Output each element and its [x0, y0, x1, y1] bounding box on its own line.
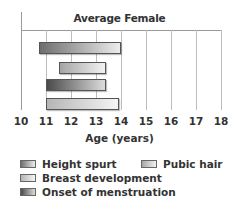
- x-tick-label: 13: [86, 115, 106, 127]
- chart-title: Average Female: [0, 12, 239, 24]
- gridline: [121, 30, 122, 110]
- onset-of-menstruation-swatch: [20, 188, 36, 196]
- x-tick-label: 15: [136, 115, 156, 127]
- gridline: [221, 30, 222, 110]
- gridline: [171, 30, 172, 110]
- x-axis-label: Age (years): [0, 132, 239, 144]
- x-tick-label: 12: [61, 115, 81, 127]
- gridline: [21, 12, 22, 110]
- gridline: [196, 30, 197, 110]
- legend-item-breast-development: Breast development: [20, 171, 162, 185]
- x-tick-label: 14: [111, 115, 131, 127]
- x-tick-label: 17: [186, 115, 206, 127]
- x-tick-label: 18: [211, 115, 231, 127]
- gridline: [146, 30, 147, 110]
- breast-development-swatch: [20, 174, 36, 182]
- legend-label: Height spurt: [42, 158, 117, 170]
- legend-item-onset-of-menstruation: Onset of menstruation: [20, 185, 176, 199]
- legend-item-pubic-hair: Pubic hair: [141, 157, 223, 171]
- pubic-hair-swatch: [141, 160, 157, 168]
- legend-label: Pubic hair: [163, 158, 223, 170]
- height-spurt-swatch: [20, 160, 36, 168]
- x-tick-label: 11: [36, 115, 56, 127]
- x-tick-label: 16: [161, 115, 181, 127]
- bar-onset-of-menstruation: [46, 79, 106, 91]
- bar-height-spurt: [39, 42, 122, 54]
- legend-label: Breast development: [42, 172, 162, 184]
- legend-label: Onset of menstruation: [42, 186, 176, 198]
- bar-pubic-hair: [59, 62, 107, 74]
- bar-breast-development: [46, 98, 119, 110]
- x-tick-label: 10: [11, 115, 31, 127]
- legend-item-height-spurt: Height spurt: [20, 157, 117, 171]
